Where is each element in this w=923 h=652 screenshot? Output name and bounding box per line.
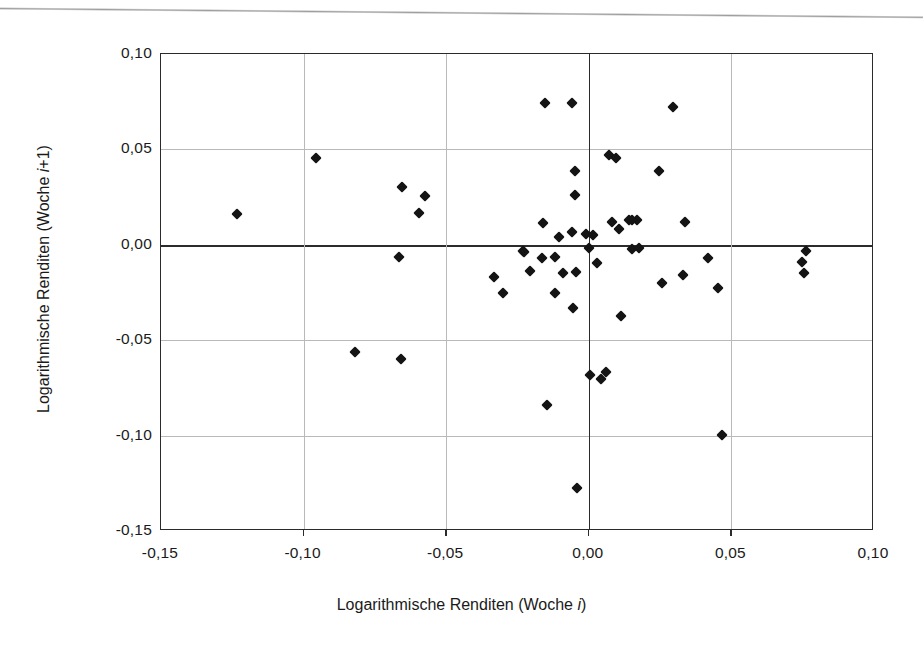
x-zero-axis-line [589,54,591,529]
y-axis-title-suffix: +1) [35,145,52,169]
data-point [667,102,678,113]
x-tick-mark [730,530,731,536]
data-point [613,223,624,234]
data-point [567,226,578,237]
data-point [680,217,691,228]
gridline-horizontal [161,436,872,437]
data-point [536,252,547,263]
data-point [583,242,594,253]
x-tick-label: -0,05 [427,544,463,562]
data-point [540,98,551,109]
data-point [537,218,548,229]
y-axis-title-italic: i [35,169,52,173]
y-axis-title: Logarithmische Renditen (Woche i+1) [35,39,53,519]
x-tick-label: -0,10 [284,544,320,562]
data-point [311,152,322,163]
scan-artifact-line [0,7,923,19]
y-tick-label: -0,10 [88,426,152,444]
data-point [566,98,577,109]
x-axis-tick-layer: -0,15-0,10-0,050,000,050,10 [160,530,873,570]
data-point [656,277,667,288]
data-point [393,252,404,263]
x-tick-mark [445,530,446,536]
data-point [796,257,807,268]
data-point [800,245,811,256]
data-point [570,267,581,278]
data-point [717,429,728,440]
x-tick-mark [588,530,589,536]
data-point [553,231,564,242]
y-tick-label: 0,00 [88,235,152,253]
plot-inner [161,54,872,529]
data-point [702,252,713,263]
y-tick-label: 0,05 [88,139,152,157]
x-axis-title-prefix: Logarithmische Renditen (Woche [337,596,578,613]
data-point [549,252,560,263]
data-point [396,181,407,192]
data-point [525,265,536,276]
gridline-horizontal [161,340,872,341]
gridline-vertical [446,54,447,529]
data-point [712,282,723,293]
x-tick-mark [303,530,304,536]
x-tick-label: 0,05 [715,544,746,562]
x-tick-label: -0,15 [142,544,178,562]
data-point [549,287,560,298]
y-axis-tick-layer: 0,100,050,00-0,05-0,10-0,15 [82,53,152,530]
gridline-horizontal [161,149,872,150]
y-zero-axis-line [161,245,872,247]
data-point [585,369,596,380]
data-point [557,267,568,278]
data-point [231,209,242,220]
x-tick-label: 0,00 [572,544,603,562]
x-tick-label: 0,10 [858,544,889,562]
data-point [497,288,508,299]
data-point [413,207,424,218]
data-point [571,482,582,493]
data-point [653,166,664,177]
data-point [567,302,578,313]
data-point [615,311,626,322]
data-point [569,190,580,201]
chart-page: Logarithmische Renditen (Woche i+1) 0,10… [0,0,923,652]
data-point [349,346,360,357]
data-point [395,354,406,365]
data-point [419,190,430,201]
gridline-vertical [304,54,305,529]
data-point [798,267,809,278]
data-point [677,269,688,280]
y-tick-label: 0,10 [88,44,152,62]
data-point [488,272,499,283]
y-axis-title-prefix: Logarithmische Renditen (Woche [35,172,52,413]
y-tick-label: -0,05 [88,330,152,348]
y-tick-label: -0,15 [88,521,152,539]
data-point [591,258,602,269]
data-point [541,399,552,410]
x-axis-title: Logarithmische Renditen (Woche i) [0,596,923,614]
gridline-vertical [731,54,732,529]
x-axis-title-suffix: ) [581,596,586,613]
plot-area [160,53,873,530]
data-point [569,166,580,177]
